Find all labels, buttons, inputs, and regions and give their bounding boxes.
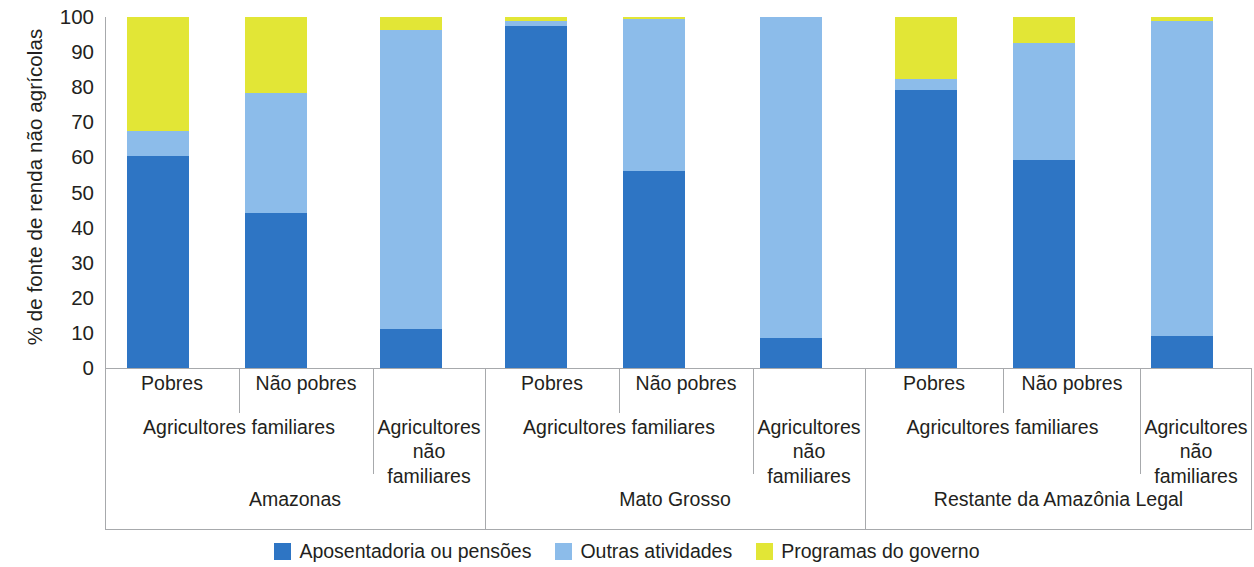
x-axis-group: PobresNão pobresAgricultores familiaresA… [865,369,1252,529]
bar-segment [1151,21,1213,335]
x-label-agricultores-familiares: Agricultores familiares [865,415,1140,439]
bar-segment [895,79,957,90]
x-axis-label-grid: PobresNão pobresAgricultores familiaresA… [105,369,1252,529]
y-axis-tick-label: 60 [71,147,94,168]
bar-segment [895,17,957,79]
chart-legend: Aposentadoria ou pensõesOutras atividade… [0,536,1254,567]
y-axis-tick-label: 0 [83,358,94,379]
legend-label: Outras atividades [580,542,732,562]
bar-segment [1013,17,1075,43]
bar-stack [127,17,189,368]
y-axis-tick-label: 100 [60,7,94,28]
x-label-nao-pobres: Não pobres [619,371,753,395]
bar-segment [760,338,822,368]
x-axis-group: PobresNão pobresAgricultores familiaresA… [105,369,485,529]
x-label-line-1: Agricultores [1140,415,1252,439]
legend-label: Aposentadoria ou pensões [299,542,531,562]
x-label-agricultores-familiares: Agricultores familiares [485,415,753,439]
y-axis-tick-label: 10 [71,323,94,344]
bar-stack [895,17,957,368]
stacked-bar-chart: % de fonte de renda não agrícolas 010203… [0,0,1254,567]
x-label-line-2: não familiares [373,439,485,488]
bar-segment [127,17,189,131]
bar-stack [380,17,442,368]
bar-segment [127,131,189,156]
y-axis-tick-label: 40 [71,217,94,238]
bar-stack [245,17,307,368]
x-label-agricultores-nao-familiares: Agricultoresnão familiares [1140,415,1252,488]
y-axis-tick-label: 90 [71,42,94,63]
y-axis-tick-label: 70 [71,112,94,133]
bar-segment [380,17,442,30]
x-label-pobres: Pobres [485,371,619,395]
bar-stack [760,17,822,368]
x-label-pobres: Pobres [865,371,1003,395]
legend-swatch-icon [756,543,773,560]
bar-segment [245,213,307,368]
x-axis-group: PobresNão pobresAgricultores familiaresA… [485,369,865,529]
bar-segment [1151,336,1213,368]
bar-segment [127,156,189,368]
bar-stack [1013,17,1075,368]
x-label-nao-pobres: Não pobres [1003,371,1141,395]
bar-segment [760,17,822,338]
x-label-region: Restante da Amazônia Legal [865,487,1252,511]
x-label-line-1: Agricultores [753,415,865,439]
x-label-agricultores-nao-familiares: Agricultoresnão familiares [753,415,865,488]
y-axis-tick-label: 50 [71,182,94,203]
plot-area [105,17,1252,368]
legend-swatch-icon [555,543,572,560]
bar-segment [245,93,307,212]
legend-label: Programas do governo [781,542,979,562]
x-label-line-2: não familiares [753,439,865,488]
legend-item: Outras atividades [555,542,732,562]
x-label-nao-pobres: Não pobres [239,371,373,395]
y-axis-tick-labels: 0102030405060708090100 [36,0,94,380]
bar-segment [623,19,685,171]
x-label-pobres: Pobres [105,371,239,395]
x-axis-label-grid-bottom-border [105,529,1252,530]
x-label-region: Mato Grosso [485,487,865,511]
x-label-line-1: Agricultores [373,415,485,439]
bar-segment [380,329,442,368]
legend-item: Aposentadoria ou pensões [274,542,531,562]
y-axis-tick-label: 80 [71,77,94,98]
bar-segment [505,26,567,368]
bar-segment [245,17,307,93]
x-label-agricultores-familiares: Agricultores familiares [105,415,373,439]
x-label-region: Amazonas [105,487,485,511]
y-axis-tick-label: 30 [71,252,94,273]
bar-segment [1013,43,1075,159]
bar-segment [895,90,957,368]
x-label-line-2: não familiares [1140,439,1252,488]
legend-swatch-icon [274,543,291,560]
bar-segment [1013,160,1075,368]
bar-stack [1151,17,1213,368]
bar-stack [623,17,685,368]
bar-stack [505,17,567,368]
bar-segment [623,171,685,368]
x-label-agricultores-nao-familiares: Agricultoresnão familiares [373,415,485,488]
bar-segment [380,30,442,328]
y-axis-tick-label: 20 [71,288,94,309]
legend-item: Programas do governo [756,542,979,562]
